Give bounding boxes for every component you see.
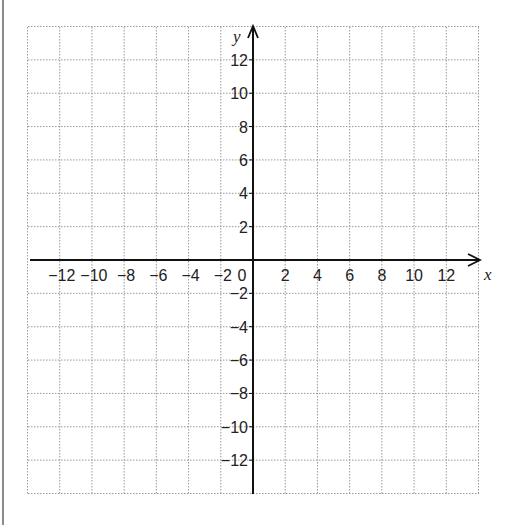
y-tick-label: 6 (239, 152, 248, 169)
y-axis-label: y (231, 27, 241, 46)
x-tick-label: 0 (238, 267, 247, 284)
y-tick-label: −2 (230, 285, 248, 302)
x-tick-label: 8 (377, 267, 386, 284)
y-tick-label: 10 (230, 85, 248, 102)
x-tick-label: −8 (117, 267, 135, 284)
y-tick-label: −4 (230, 319, 248, 336)
x-tick-labels: −12−10−8−6−4−2024681012 (48, 267, 455, 284)
x-axis-label: x (483, 265, 492, 284)
y-tick-label: −10 (221, 419, 248, 436)
y-tick-label: −6 (230, 352, 248, 369)
x-tick-label: −6 (149, 267, 167, 284)
x-tick-label: 4 (313, 267, 322, 284)
coordinate-plane: −12−10−8−6−4−2024681012 12108642−2−4−6−8… (0, 0, 510, 525)
y-tick-label: 4 (239, 185, 248, 202)
x-tick-label: 2 (281, 267, 290, 284)
y-tick-label: 2 (239, 219, 248, 236)
x-tick-label: −2 (214, 267, 232, 284)
y-tick-label: −12 (221, 452, 248, 469)
y-tick-label: 8 (239, 119, 248, 136)
y-tick-label: 12 (230, 52, 248, 69)
x-tick-label: −10 (80, 267, 107, 284)
y-tick-label: −8 (230, 385, 248, 402)
x-tick-label: 10 (405, 267, 423, 284)
x-tick-label: −4 (181, 267, 199, 284)
x-tick-label: 6 (345, 267, 354, 284)
axes (30, 26, 480, 494)
x-tick-label: −12 (48, 267, 75, 284)
x-tick-label: 12 (437, 267, 455, 284)
